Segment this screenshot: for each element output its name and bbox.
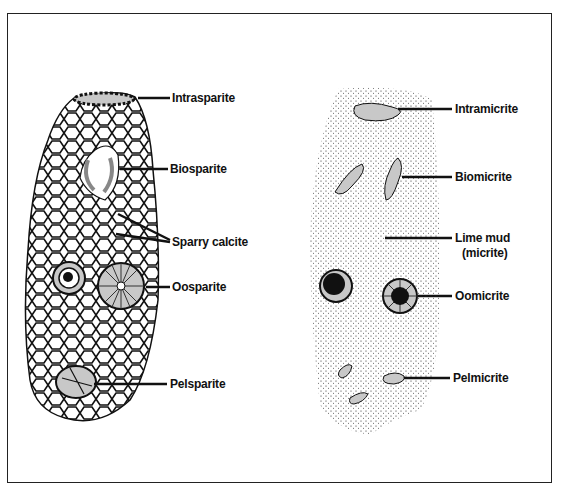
label-pelmicrite: Pelmicrite	[453, 371, 508, 385]
label-lime-mud: Lime mud	[455, 231, 510, 245]
label-oosparite: Oosparite	[172, 280, 226, 294]
label-intramicrite: Intramicrite	[455, 102, 518, 116]
intraclast-grain	[74, 93, 134, 105]
label-biosparite: Biosparite	[170, 162, 227, 176]
label-sparry-calcite: Sparry calcite	[172, 235, 248, 249]
label-pelsparite: Pelsparite	[170, 377, 225, 391]
micrite-column	[310, 88, 440, 435]
label-biomicrite: Biomicrite	[455, 170, 512, 184]
label-micrite: (micrite)	[462, 246, 508, 260]
label-intrasparite: Intrasparite	[172, 91, 235, 105]
label-oomicrite: Oomicrite	[455, 289, 509, 303]
peloid-grain	[383, 373, 404, 384]
